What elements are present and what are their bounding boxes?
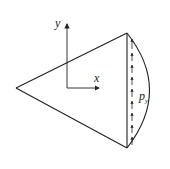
lower-radius-line — [16, 88, 127, 148]
sector-diagram — [0, 0, 170, 169]
sector-outline — [16, 33, 150, 148]
upper-radius-line — [16, 33, 127, 88]
load-label: py — [139, 90, 148, 105]
diagram-canvas: y x py — [0, 0, 170, 169]
x-axis-label: x — [94, 72, 99, 84]
y-axis-label: y — [55, 17, 60, 29]
load-subscript: y — [145, 97, 148, 105]
